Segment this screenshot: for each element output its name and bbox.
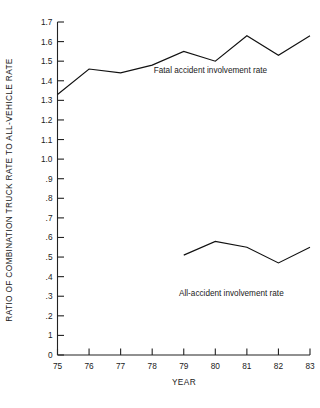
y-tick-label: .6 — [46, 232, 53, 242]
x-tick-label: 82 — [274, 361, 284, 371]
y-tick-label: 1 — [48, 330, 53, 340]
x-tick-label: 78 — [148, 361, 158, 371]
y-tick-label: .2 — [46, 311, 53, 321]
x-tick-label: 80 — [211, 361, 221, 371]
y-tick-label: 1.7 — [41, 17, 53, 27]
y-tick-label: .4 — [46, 272, 53, 282]
y-tick-label: 1.2 — [41, 115, 53, 125]
y-tick-label: 1.0 — [41, 154, 53, 164]
y-tick-label: .7 — [46, 213, 53, 223]
y-axis-title: RATIO OF COMBINATION TRUCK RATE TO ALL-V… — [4, 58, 14, 322]
y-tick-label: 1.1 — [41, 135, 53, 145]
x-tick-label: 81 — [242, 361, 252, 371]
x-axis-title: YEAR — [172, 377, 196, 387]
y-tick-label: 1.5 — [41, 56, 53, 66]
x-tick-label: 83 — [305, 361, 315, 371]
y-tick-label: .8 — [46, 193, 53, 203]
y-tick-label: 1.6 — [41, 37, 53, 47]
y-tick-label: 1.3 — [41, 95, 53, 105]
y-tick-label: 1.4 — [41, 76, 53, 86]
y-tick-label: .5 — [46, 252, 53, 262]
y-tick-label: 0 — [48, 350, 53, 360]
x-tick-label: 75 — [53, 361, 63, 371]
chart-container: RATIO OF COMBINATION TRUCK RATE TO ALL-V… — [0, 0, 320, 408]
series-label: Fatal accident involvement rate — [154, 66, 268, 75]
x-tick-label: 77 — [116, 361, 126, 371]
x-tick-label: 76 — [84, 361, 94, 371]
y-tick-label: .9 — [46, 174, 53, 184]
line-chart: RATIO OF COMBINATION TRUCK RATE TO ALL-V… — [0, 0, 320, 408]
series-label: All-accident involvement rate — [179, 289, 284, 298]
y-tick-label: .3 — [46, 291, 53, 301]
x-tick-label: 79 — [179, 361, 189, 371]
